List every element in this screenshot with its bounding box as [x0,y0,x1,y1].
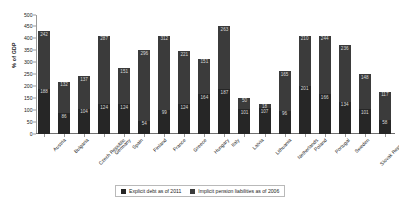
stacked-bar[interactable]: 151124 [118,68,130,133]
bar-column[interactable]: 151164 [198,15,210,134]
x-axis-labels: AustriaBulgariaCzech RepublicGermanySpai… [36,137,393,181]
bar-column[interactable]: 151124 [118,15,130,134]
bar-segment-explicit[interactable]: 201 [299,86,311,134]
bar-segment-explicit[interactable]: 187 [218,89,230,134]
bar-value-label: 50 [242,99,247,104]
stacked-bar[interactable]: 50101 [238,98,250,134]
stacked-bar-chart: % of GDP 050100150200250300350400450500 … [0,0,399,207]
y-axis-title: % of GDP [11,25,17,85]
bar-value-label: 58 [382,121,387,126]
bar-column[interactable]: 18107 [259,15,271,134]
bar-segment-implicit[interactable]: 242 [38,31,50,89]
plot-area: 050100150200250300350400450500 242188132… [36,15,393,134]
stacked-bar[interactable]: 236134 [339,45,351,133]
bar-column[interactable]: 263187 [218,15,230,134]
bar-column[interactable]: 13286 [58,15,70,134]
bar-segment-explicit[interactable]: 99 [158,110,170,134]
bar-segment-implicit[interactable]: 165 [279,71,291,110]
legend-label: Explicit debt as of 2011 [129,188,181,194]
bar-segment-explicit[interactable]: 54 [138,121,150,134]
bar-value-label: 124 [100,106,108,111]
bar-column[interactable]: 31299 [158,15,170,134]
bar-segment-implicit[interactable]: 221 [178,51,190,104]
bar-segment-implicit[interactable]: 244 [319,36,331,94]
bar-column[interactable]: 242188 [38,15,50,134]
bar-segment-explicit[interactable]: 166 [319,94,331,134]
bar-segment-implicit[interactable]: 287 [98,36,110,104]
legend-item[interactable]: Implicit pension liabilities as of 2006 [190,188,279,194]
bar-value-label: 104 [80,110,88,115]
bar-segment-explicit[interactable]: 134 [339,102,351,134]
bar-value-label: 244 [321,37,329,42]
stacked-bar[interactable]: 244166 [319,36,331,134]
bar-value-label: 99 [162,111,167,116]
bar-column[interactable]: 244166 [319,15,331,134]
bar-segment-implicit[interactable]: 117 [379,92,391,120]
bar-segment-explicit[interactable]: 164 [198,94,210,133]
bar-value-label: 164 [201,96,209,101]
stacked-bar[interactable]: 148101 [359,74,371,133]
bar-segment-implicit[interactable]: 151 [198,59,210,95]
stacked-bar[interactable]: 29654 [138,50,150,133]
bar-value-label: 101 [361,111,369,116]
bar-segment-explicit[interactable]: 101 [238,109,250,133]
bar-column[interactable]: 29654 [138,15,150,134]
bar-value-label: 166 [321,96,329,101]
x-tick-label: Portugal [333,137,350,154]
bar-column[interactable]: 11758 [379,15,391,134]
stacked-bar[interactable]: 18107 [259,104,271,134]
bar-segment-explicit[interactable]: 86 [58,113,70,133]
stacked-bar[interactable]: 16596 [279,71,291,133]
stacked-bar[interactable]: 263187 [218,26,230,133]
legend-item[interactable]: Explicit debt as of 2011 [121,188,181,194]
bar-column[interactable]: 221124 [178,15,190,134]
bar-segment-implicit[interactable]: 263 [218,26,230,89]
bar-segment-implicit[interactable]: 312 [158,36,170,110]
bar-segment-implicit[interactable]: 236 [339,45,351,101]
bar-segment-explicit[interactable]: 124 [178,104,190,134]
bar-segment-explicit[interactable]: 101 [359,109,371,133]
stacked-bar[interactable]: 11758 [379,92,391,134]
stacked-bar[interactable]: 221124 [178,51,190,133]
bar-column[interactable]: 210201 [299,15,311,134]
bar-column[interactable]: 50101 [238,15,250,134]
bar-segment-explicit[interactable]: 104 [78,109,90,134]
stacked-bar[interactable]: 287124 [98,36,110,134]
bar-value-label: 187 [221,91,229,96]
bar-column[interactable]: 16596 [279,15,291,134]
bar-segment-implicit[interactable]: 296 [138,50,150,120]
bar-segment-implicit[interactable]: 210 [299,36,311,86]
legend-swatch [121,189,126,194]
bar-value-label: 132 [60,83,68,88]
bar-value-label: 134 [341,103,349,108]
bar-segment-explicit[interactable]: 124 [98,104,110,134]
bar-column[interactable]: 148101 [359,15,371,134]
bar-column[interactable]: 236134 [339,15,351,134]
bar-value-label: 54 [142,122,147,127]
bar-segment-explicit[interactable]: 188 [38,89,50,134]
bar-value-label: 151 [120,70,128,75]
bar-value-label: 188 [40,90,48,95]
bar-segment-implicit[interactable]: 148 [359,74,371,109]
bar-value-label: 236 [341,47,349,52]
bar-segment-implicit[interactable]: 151 [118,68,130,104]
bar-value-label: 151 [201,60,209,65]
bar-value-label: 124 [120,106,128,111]
bar-segment-explicit[interactable]: 58 [379,120,391,134]
bar-segment-explicit[interactable]: 124 [118,104,130,134]
bar-segment-explicit[interactable]: 96 [279,111,291,134]
bar-segment-explicit[interactable]: 107 [259,108,271,133]
bar-segment-implicit[interactable]: 50 [238,98,250,110]
stacked-bar[interactable]: 137104 [78,76,90,133]
stacked-bar[interactable]: 242188 [38,31,50,133]
bar-column[interactable]: 137104 [78,15,90,134]
bar-column[interactable]: 287124 [98,15,110,134]
bar-segment-implicit[interactable]: 137 [78,76,90,109]
x-tick-label: France [172,137,187,152]
x-tick-label: Sweden [353,137,370,154]
bar-segment-implicit[interactable]: 132 [58,82,70,113]
stacked-bar[interactable]: 13286 [58,82,70,134]
stacked-bar[interactable]: 151164 [198,59,210,134]
stacked-bar[interactable]: 210201 [299,36,311,134]
stacked-bar[interactable]: 31299 [158,36,170,134]
